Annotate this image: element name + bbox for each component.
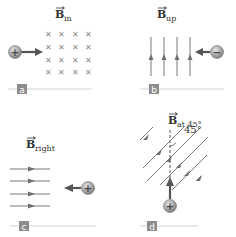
- cross-icon: ✕: [72, 30, 79, 39]
- cross-icon: ✕: [45, 68, 52, 77]
- cross-icon: ✕: [45, 56, 52, 65]
- field-label-a: B in: [55, 7, 72, 24]
- cross-icon: ✕: [85, 56, 92, 65]
- positive-charge-a: +: [9, 46, 22, 59]
- cross-icon: ✕: [85, 30, 92, 39]
- velocity-arrow-d: [166, 177, 174, 199]
- panel-d-caption: d: [140, 221, 198, 232]
- svg-text:a: a: [19, 85, 25, 95]
- field-into-page-grid: ✕ ✕ ✕ ✕ ✕ ✕ ✕ ✕ ✕ ✕ ✕ ✕ ✕ ✕ ✕ ✕: [45, 30, 92, 77]
- panel-a: B in ✕ ✕ ✕ ✕ ✕ ✕ ✕ ✕ ✕ ✕ ✕ ✕ ✕ ✕ ✕: [8, 7, 92, 95]
- svg-text:B: B: [168, 114, 177, 127]
- panel-b: B up − b: [140, 7, 224, 95]
- panel-d: B at 45° 45°: [140, 113, 208, 232]
- cross-icon: ✕: [58, 68, 65, 77]
- field-lines-up: [149, 37, 193, 76]
- svg-text:B: B: [26, 138, 35, 151]
- panel-c: B right + c: [10, 137, 96, 232]
- velocity-arrow-c: [64, 184, 81, 192]
- svg-text:in: in: [64, 14, 72, 23]
- cross-icon: ✕: [45, 30, 52, 39]
- svg-text:+: +: [11, 47, 19, 58]
- field-label-c: B right: [26, 137, 56, 154]
- svg-text:45°: 45°: [184, 124, 202, 135]
- panel-b-caption: b: [140, 84, 224, 95]
- cross-icon: ✕: [72, 68, 79, 77]
- cross-icon: ✕: [58, 30, 65, 39]
- field-lines-45deg: [140, 127, 208, 190]
- svg-text:B: B: [55, 8, 64, 21]
- cross-icon: ✕: [72, 56, 79, 65]
- panel-a-caption: a: [8, 84, 92, 95]
- cross-icon: ✕: [58, 56, 65, 65]
- svg-text:−: −: [213, 47, 221, 58]
- cross-icon: ✕: [85, 43, 92, 52]
- svg-text:up: up: [166, 14, 176, 23]
- negative-charge-b: −: [211, 46, 224, 59]
- panel-c-caption: c: [10, 221, 96, 232]
- positive-charge-d: +: [164, 200, 177, 213]
- field-label-b: B up: [157, 7, 176, 24]
- svg-text:B: B: [157, 8, 166, 21]
- field-lines-right: [10, 167, 50, 209]
- svg-text:b: b: [151, 85, 157, 95]
- velocity-arrow-b: [195, 48, 210, 56]
- cross-icon: ✕: [58, 43, 65, 52]
- svg-text:c: c: [22, 222, 27, 232]
- svg-text:d: d: [149, 222, 155, 232]
- svg-text:+: +: [166, 201, 174, 212]
- velocity-arrow-a: [21, 48, 43, 56]
- svg-text:right: right: [35, 144, 56, 153]
- cross-icon: ✕: [72, 43, 79, 52]
- positive-charge-c: +: [82, 182, 95, 195]
- cross-icon: ✕: [45, 43, 52, 52]
- cross-icon: ✕: [85, 68, 92, 77]
- svg-text:+: +: [84, 183, 92, 194]
- magnetic-force-diagram: B in ✕ ✕ ✕ ✕ ✕ ✕ ✕ ✕ ✕ ✕ ✕ ✕ ✕ ✕ ✕: [0, 0, 236, 237]
